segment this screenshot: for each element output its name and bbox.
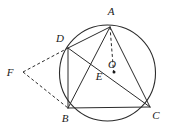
segment-AC <box>110 27 150 107</box>
point-label-F: F <box>6 66 14 78</box>
circumscribed-circle <box>60 25 156 121</box>
point-label-C: C <box>152 109 160 121</box>
point-label-B: B <box>62 112 69 124</box>
segment-AB <box>68 27 110 108</box>
point-label-D: D <box>55 32 64 44</box>
segment-AD <box>68 27 110 48</box>
segment-DC <box>68 48 150 107</box>
segment-BC <box>68 107 150 108</box>
point-label-A: A <box>107 5 115 17</box>
segment-FB <box>23 72 68 108</box>
point-label-O: O <box>108 58 116 70</box>
geometry-canvas: A B C D E O F <box>0 0 169 140</box>
center-point-marker <box>113 71 116 74</box>
point-label-E: E <box>95 70 103 82</box>
geometry-figure: A B C D E O F <box>0 0 169 140</box>
